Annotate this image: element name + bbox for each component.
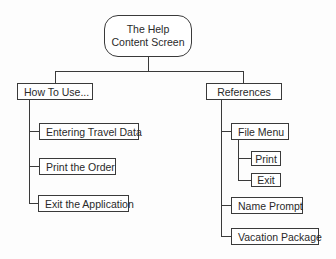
node-label: Name Prompt	[238, 200, 303, 212]
node-vacation-package: Vacation Package	[231, 228, 319, 245]
filemenu-trunk	[238, 139, 239, 180]
root-label-line2: Content Screen	[112, 36, 185, 49]
root-node: The Help Content Screen	[104, 15, 192, 57]
node-label: Exit	[257, 174, 275, 186]
node-label: Print	[255, 153, 277, 165]
node-exit: Exit	[251, 173, 281, 187]
right-drop	[243, 71, 244, 83]
node-references: References	[206, 83, 282, 100]
node-label: How To Use...	[24, 86, 89, 98]
node-exit-the-application: Exit the Application	[38, 195, 129, 212]
node-name-prompt: Name Prompt	[231, 197, 303, 214]
root-label-line1: The Help	[127, 23, 170, 36]
node-print: Print	[251, 151, 281, 166]
node-label: Print the Order	[46, 161, 115, 173]
node-label: Vacation Package	[238, 231, 322, 243]
root-stem	[148, 57, 149, 71]
node-label: Entering Travel Data	[46, 126, 142, 138]
filemenu-tick-2	[238, 180, 251, 181]
left-tick-2	[29, 166, 39, 167]
left-trunk	[29, 99, 30, 204]
right-tick-2	[221, 205, 231, 206]
node-how-to-use: How To Use...	[17, 83, 93, 100]
right-trunk	[221, 99, 222, 237]
right-tick-3	[221, 236, 231, 237]
left-tick-1	[29, 131, 39, 132]
node-label: Exit the Application	[45, 198, 134, 210]
help-content-diagram: The Help Content Screen How To Use... Re…	[0, 0, 336, 259]
node-file-menu: File Menu	[231, 123, 289, 140]
node-entering-travel-data: Entering Travel Data	[39, 123, 139, 140]
top-bar	[55, 71, 244, 72]
node-print-the-order: Print the Order	[39, 158, 116, 175]
left-drop	[55, 71, 56, 83]
right-tick-1	[221, 131, 231, 132]
node-label: References	[217, 86, 271, 98]
node-label: File Menu	[238, 126, 284, 138]
filemenu-tick-1	[238, 158, 251, 159]
